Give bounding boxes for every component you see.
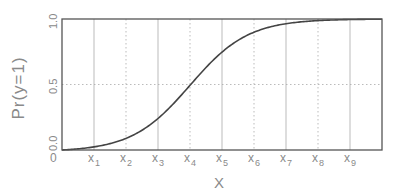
y-tick-1: 1.0 [47, 14, 59, 29]
y-tick-0: 0.0 [47, 136, 59, 151]
x-tick-label: x1 [88, 151, 100, 168]
gridlines [62, 19, 382, 150]
x-axis-ticks: x1x2x3x4x5x6x7x8x9 [88, 151, 356, 168]
x-tick-label: x8 [312, 151, 324, 168]
x-tick-label: x7 [280, 151, 292, 168]
x-origin-label: 0 [50, 151, 57, 165]
x-tick-label: x9 [344, 151, 356, 168]
x-tick-label: x2 [120, 151, 132, 168]
y-tick-0-5: 0.5 [47, 79, 59, 94]
y-axis-ticks: 0.0 0.5 1.0 [47, 14, 59, 151]
x-axis-label: X [214, 174, 224, 191]
x-tick-label: x6 [248, 151, 260, 168]
x-tick-label: x4 [184, 151, 196, 168]
x-tick-label: x5 [216, 151, 228, 168]
x-tick-label: x3 [152, 151, 164, 168]
logistic-chart: 0.0 0.5 1.0 Pr(y=1) 0 x1x2x3x4x5x6x7x8x9… [0, 0, 396, 195]
y-axis-label: Pr(y=1) [9, 56, 28, 119]
